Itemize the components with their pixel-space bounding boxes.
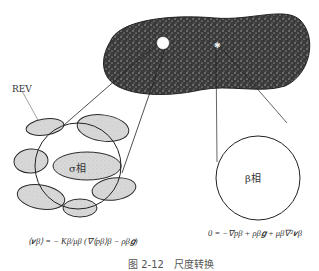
sigma-phase-label: σ相 [69,160,86,175]
beta-phase-label: β相 [245,170,261,185]
rev-label: REV [12,84,32,94]
figure-caption: 图 2-12 尺度转换 [128,256,214,271]
porous-medium-body [104,14,310,95]
stokes-equation: 0 = −∇pβ + ρβ𝒈 + μβ∇²𝒗β [208,228,302,239]
pore-point-marker: ✱ [214,41,221,50]
darcy-equation: ⟨𝒗β⟩ = − Kβ/μβ (∇⟨pβ⟩β − ρβ𝒈) [28,236,138,247]
rev-point [157,37,170,50]
